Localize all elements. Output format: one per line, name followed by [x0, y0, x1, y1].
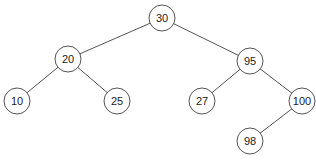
edge-30-95 — [162, 18, 250, 61]
node-label: 20 — [62, 53, 74, 65]
edges-group — [17, 18, 302, 141]
tree-node-30: 30 — [149, 5, 175, 31]
tree-node-10: 10 — [4, 88, 30, 114]
node-label: 95 — [244, 55, 256, 67]
node-label: 98 — [244, 135, 256, 147]
node-label: 100 — [293, 95, 311, 107]
tree-node-20: 20 — [55, 46, 81, 72]
node-label: 25 — [111, 95, 123, 107]
tree-node-98: 98 — [237, 128, 263, 154]
node-label: 30 — [156, 12, 168, 24]
tree-node-95: 95 — [237, 48, 263, 74]
tree-node-25: 25 — [104, 88, 130, 114]
tree-node-100: 100 — [289, 88, 315, 114]
edge-30-20 — [68, 18, 162, 59]
nodes-group: 30209510252710098 — [4, 5, 315, 154]
node-label: 27 — [196, 95, 208, 107]
tree-node-27: 27 — [189, 88, 215, 114]
node-label: 10 — [11, 95, 23, 107]
binary-tree-diagram: 30209510252710098 — [0, 0, 316, 161]
